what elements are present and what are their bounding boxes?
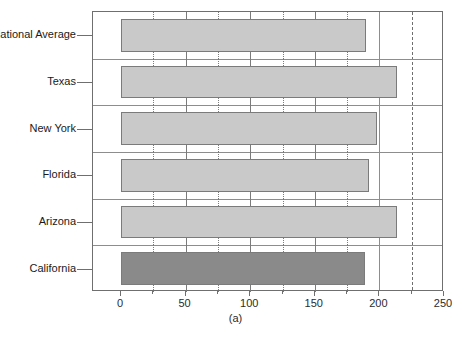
y-axis-tick (77, 269, 93, 270)
bar (121, 159, 369, 192)
gap-tick-minor (347, 105, 348, 112)
x-axis-tick (378, 291, 379, 296)
gap-tick-minor (153, 98, 154, 105)
gap-tick-minor (153, 245, 154, 252)
gap-tick-major (250, 285, 251, 292)
gap-tick-minor (347, 59, 348, 66)
gap-tick-major (250, 152, 251, 159)
gap-tick-minor (218, 105, 219, 112)
x-axis-tick-label: 0 (117, 297, 123, 309)
gap-tick-minor (347, 12, 348, 19)
gap-tick-minor (283, 98, 284, 105)
gap-tick-minor (347, 145, 348, 152)
y-axis-tick-label: Florida (42, 168, 76, 180)
gap-tick-major (250, 12, 251, 19)
gap-tick-major (250, 59, 251, 66)
gap-tick-major (186, 105, 187, 112)
gap-tick-minor (218, 238, 219, 245)
y-axis-tick (77, 129, 93, 130)
x-axis-minor-tick (152, 291, 153, 294)
gap-tick-minor (283, 245, 284, 252)
gap-tick-major (186, 238, 187, 245)
y-axis-tick (77, 222, 93, 223)
bar (121, 66, 397, 99)
gap-tick-minor (347, 285, 348, 292)
gap-tick-minor (153, 192, 154, 199)
gap-tick-major (186, 285, 187, 292)
bar (121, 19, 366, 52)
bar (121, 112, 377, 145)
gap-tick-minor (153, 152, 154, 159)
gap-tick-minor (218, 145, 219, 152)
gap-tick-minor (283, 152, 284, 159)
gap-tick-major (250, 98, 251, 105)
gap-tick-minor (347, 52, 348, 59)
gap-tick-minor (153, 12, 154, 19)
gap-tick-minor (218, 12, 219, 19)
y-axis-tick-label: New York (30, 122, 76, 134)
gap-tick-minor (218, 152, 219, 159)
reference-line-dashed (412, 12, 413, 290)
gap-tick-major (186, 12, 187, 19)
gap-tick-minor (283, 145, 284, 152)
x-axis-tick (185, 291, 186, 296)
gap-tick-major (250, 145, 251, 152)
gap-tick-major (315, 52, 316, 59)
figure-panel-a: National AverageTexasNew YorkFloridaAriz… (0, 0, 471, 339)
x-axis-tick-label: 50 (178, 297, 190, 309)
gap-tick-major (315, 245, 316, 252)
gap-tick-minor (347, 245, 348, 252)
y-axis-tick (77, 35, 93, 36)
x-axis-tick-label: 200 (369, 297, 387, 309)
gap-tick-major (315, 145, 316, 152)
gap-tick-minor (218, 199, 219, 206)
y-axis-tick-label: National Average (0, 28, 76, 40)
x-axis-tick (443, 291, 444, 296)
gap-tick-major (315, 12, 316, 19)
x-axis-minor-tick (411, 291, 412, 294)
gap-tick-major (186, 245, 187, 252)
plot-area (92, 11, 443, 291)
row-separator (93, 245, 442, 246)
gap-tick-major (186, 98, 187, 105)
gap-tick-major (315, 59, 316, 66)
gap-tick-major (186, 145, 187, 152)
y-axis-tick (77, 82, 93, 83)
row-separator (93, 199, 442, 200)
y-axis-tick-label: Arizona (39, 215, 76, 227)
bar (121, 206, 397, 239)
gap-tick-major (315, 105, 316, 112)
gap-tick-minor (283, 105, 284, 112)
x-axis-tick-label: 100 (240, 297, 258, 309)
x-axis-tick (314, 291, 315, 296)
figure-caption: (a) (0, 312, 471, 324)
gap-tick-minor (283, 12, 284, 19)
gap-tick-minor (153, 59, 154, 66)
gap-tick-major (315, 152, 316, 159)
gap-tick-major (250, 238, 251, 245)
gap-tick-minor (153, 52, 154, 59)
gap-tick-major (186, 199, 187, 206)
gap-tick-minor (153, 145, 154, 152)
gap-tick-major (186, 152, 187, 159)
gap-tick-major (186, 59, 187, 66)
gap-tick-major (315, 192, 316, 199)
y-axis-tick-label: California (30, 262, 76, 274)
y-axis-category-labels: National AverageTexasNew YorkFloridaAriz… (0, 0, 76, 339)
gap-tick-minor (283, 238, 284, 245)
x-axis-tick (249, 291, 250, 296)
y-axis-tick (77, 175, 93, 176)
x-axis-minor-tick (217, 291, 218, 294)
gap-tick-major (250, 245, 251, 252)
y-axis-tick-label: Texas (47, 75, 76, 87)
gap-tick-minor (347, 152, 348, 159)
x-axis-tick-label: 250 (434, 297, 452, 309)
gap-tick-minor (218, 59, 219, 66)
x-axis-tick (120, 291, 121, 296)
gap-tick-major (250, 105, 251, 112)
gap-tick-major (250, 192, 251, 199)
gap-tick-minor (218, 98, 219, 105)
gap-tick-major (186, 52, 187, 59)
gap-tick-minor (218, 285, 219, 292)
gap-tick-minor (347, 192, 348, 199)
